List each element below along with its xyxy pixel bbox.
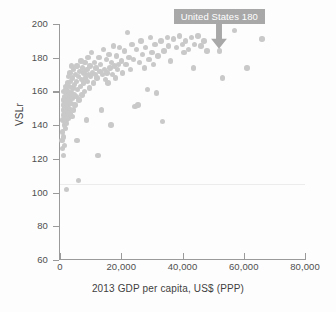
plot-area: [60, 24, 305, 260]
scatter-point: [95, 153, 100, 158]
scatter-point: [244, 65, 249, 70]
scatter-point: [105, 80, 110, 85]
scatter-point: [89, 50, 94, 55]
scatter-point: [106, 52, 111, 57]
y-tick: [53, 24, 59, 25]
scatter-point: [62, 143, 67, 148]
scatter-point: [259, 36, 264, 41]
scatter-point: [192, 42, 197, 47]
annotation-label-united-states: United States 180: [174, 9, 265, 24]
scatter-point: [129, 42, 134, 47]
scatter-point: [113, 75, 118, 80]
y-tick-label: 160: [32, 86, 48, 96]
y-tick: [53, 125, 59, 126]
scatter-point: [84, 117, 89, 122]
scatter-point: [143, 45, 148, 50]
scatter-point: [125, 30, 130, 35]
scatter-point: [72, 102, 77, 107]
scatter-point: [168, 58, 173, 63]
y-axis-label: VSLr: [14, 103, 25, 126]
x-tick-label: 80,000: [290, 262, 320, 272]
scatter-point: [142, 65, 147, 70]
x-tick: [305, 253, 306, 259]
y-tick: [53, 91, 59, 92]
y-tick-label: 180: [32, 53, 48, 63]
scatter-point: [183, 38, 188, 43]
scatter-point: [198, 43, 203, 48]
y-tick-label: 120: [32, 154, 48, 164]
scatter-point: [201, 38, 206, 43]
scatter-point: [122, 48, 127, 53]
scatter-point: [195, 33, 200, 38]
scatter-point: [134, 47, 139, 52]
x-tick-label: 40,000: [168, 262, 198, 272]
scatter-point: [186, 47, 191, 52]
scatter-point: [111, 43, 116, 48]
scatter-point: [76, 178, 81, 183]
scatter-point: [61, 134, 66, 139]
y-tick-label: 140: [32, 120, 48, 130]
scatter-point: [69, 114, 74, 119]
scatter-point: [94, 75, 99, 80]
scatter-point: [61, 153, 66, 158]
y-tick-label: 60: [37, 255, 48, 265]
scatter-point: [145, 87, 150, 92]
scatter-point: [114, 53, 119, 58]
scatter-point: [189, 35, 194, 40]
scatter-point: [101, 47, 106, 52]
scatter-point: [152, 42, 157, 47]
scatter-point: [151, 62, 156, 67]
scatter-point: [91, 80, 96, 85]
annotation-arrow-down-icon: [210, 24, 228, 50]
x-tick-label: 60,000: [229, 262, 259, 272]
scatter-point: [204, 48, 209, 53]
scatter-point: [158, 38, 163, 43]
x-tick-label: 0: [57, 262, 62, 272]
scatter-point: [85, 55, 90, 60]
scatter-point: [87, 85, 92, 90]
scatter-point: [64, 121, 69, 126]
scatter-point: [120, 70, 125, 75]
scatter-point: [99, 107, 104, 112]
scatter-point: [64, 187, 69, 192]
scatter-point: [137, 60, 142, 65]
scatter-point: [131, 57, 136, 62]
y-tick: [53, 226, 59, 227]
y-tick-label: 80: [37, 221, 48, 231]
scatter-point: [135, 102, 140, 107]
scatter-point: [174, 45, 179, 50]
scatter-point: [138, 38, 143, 43]
scatter-point: [220, 75, 225, 80]
scatter-point: [155, 53, 160, 58]
scatter-point: [85, 79, 90, 84]
scatter-point: [149, 50, 154, 55]
x-tick-label: 20,000: [106, 262, 136, 272]
scatter-point: [160, 119, 165, 124]
scatter-point: [146, 57, 151, 62]
scatter-point: [154, 90, 159, 95]
scatter-chart-figure: 6080100120140160180200 020,00040,00060,0…: [0, 0, 336, 312]
scatter-point: [96, 55, 101, 60]
scatter-point: [74, 138, 79, 143]
x-axis-label: 2013 GDP per capita, US$ (PPP): [0, 283, 336, 294]
scatter-point: [177, 33, 182, 38]
scatter-point: [123, 62, 128, 67]
y-tick-label: 100: [32, 188, 48, 198]
scatter-point: [166, 43, 171, 48]
y-tick: [53, 193, 59, 194]
scatter-point: [171, 36, 176, 41]
scatter-point: [161, 48, 166, 53]
scatter-point: [148, 35, 153, 40]
scatter-point: [165, 35, 170, 40]
scatter-point: [128, 67, 133, 72]
y-tick-label: 200: [32, 19, 48, 29]
y-tick: [53, 58, 59, 59]
scatter-point: [71, 107, 76, 112]
scatter-point: [191, 65, 196, 70]
scatter-point: [63, 126, 68, 131]
scatter-point: [108, 122, 113, 127]
scatter-point: [76, 97, 81, 102]
y-tick: [53, 159, 59, 160]
scatter-point: [232, 28, 237, 33]
scatter-point: [140, 52, 145, 57]
